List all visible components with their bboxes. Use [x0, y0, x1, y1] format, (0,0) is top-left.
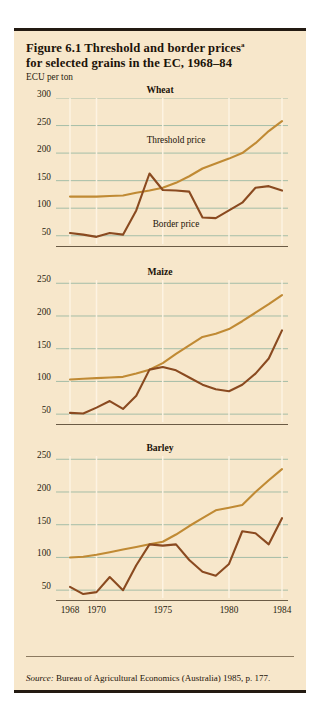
y-tick-label: 150 [14, 172, 54, 182]
series-line-threshold-price [70, 295, 282, 379]
figure-title: Figure 6.1 Threshold and border pricesa … [26, 38, 294, 71]
x-tick-label: 1980 [220, 605, 239, 615]
source-prefix: Source: [26, 673, 54, 683]
y-tick-label: 50 [14, 581, 54, 591]
x-axis-line [56, 246, 288, 247]
x-tick-label: 1975 [153, 605, 172, 615]
y-tick-label: 250 [14, 117, 54, 127]
x-axis-line [56, 424, 288, 425]
figure-top-rule [14, 28, 306, 31]
series-annotation-border-price: Border price [153, 219, 200, 229]
y-tick-label: 100 [14, 372, 54, 382]
figure-bottom-rule [14, 690, 306, 693]
series-line-border-price [70, 518, 282, 594]
plot-area-barley [56, 456, 288, 598]
y-tick-label: 200 [14, 307, 54, 317]
series-line-threshold-price [70, 121, 282, 196]
chart-panel-wheat: Wheat50100150200250300Threshold priceBor… [14, 84, 306, 266]
plot-svg-maize [56, 280, 288, 422]
x-tick-label: 1970 [87, 605, 106, 615]
plot-area-maize [56, 280, 288, 422]
y-tick-label: 100 [14, 199, 54, 209]
x-tick-label: 1968 [61, 605, 80, 615]
y-tick-label: 150 [14, 516, 54, 526]
figure-title-footnote-marker: a [241, 41, 245, 49]
y-tick-label: 150 [14, 340, 54, 350]
y-axis-unit-label: ECU per ton [26, 72, 73, 82]
figure-container: Figure 6.1 Threshold and border pricesa … [14, 28, 306, 693]
source-separator [26, 656, 294, 657]
y-tick-label: 250 [14, 274, 54, 284]
chart-panel-maize: Maize50100150200250 [14, 266, 306, 442]
y-tick-label: 200 [14, 483, 54, 493]
figure-source: Source: Bureau of Agricultural Economics… [26, 673, 298, 683]
panel-title-wheat: Wheat [14, 84, 306, 95]
y-tick-label: 50 [14, 405, 54, 415]
source-text: Bureau of Agricultural Economics (Austra… [54, 673, 271, 683]
y-tick-label: 100 [14, 548, 54, 558]
series-annotation-threshold-price: Threshold price [147, 135, 206, 145]
panel-title-maize: Maize [14, 266, 306, 277]
x-axis-line [56, 600, 288, 601]
plot-svg-barley [56, 456, 288, 598]
y-tick-label: 50 [14, 227, 54, 237]
y-tick-label: 300 [14, 89, 54, 99]
panel-title-barley: Barley [14, 442, 306, 453]
figure-title-line2: for selected grains in the EC, 1968–84 [26, 56, 232, 70]
x-tick-label: 1984 [273, 605, 292, 615]
chart-panel-barley: Barley5010015020025019681970197519801984 [14, 442, 306, 632]
y-tick-label: 250 [14, 450, 54, 460]
y-tick-label: 200 [14, 144, 54, 154]
series-line-border-price [70, 330, 282, 413]
figure-title-line1: Figure 6.1 Threshold and border prices [26, 41, 241, 55]
